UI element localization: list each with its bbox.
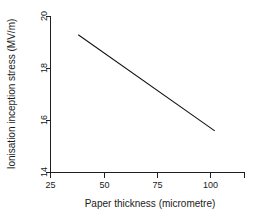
x-tick-label-75: 75 bbox=[152, 180, 162, 190]
x-tick-label-50: 50 bbox=[99, 180, 109, 190]
y-axis-title: Ionisation inception stress (MV/m) bbox=[6, 19, 17, 170]
y-tick-label-14: 14 bbox=[39, 167, 49, 177]
y-tick-label-20: 20 bbox=[39, 11, 49, 21]
plot-canvas: 20 18 16 14 25 50 75 100 Ionisation ince… bbox=[0, 0, 266, 216]
y-tick-label-16: 16 bbox=[39, 115, 49, 125]
data-series-line bbox=[78, 35, 215, 131]
x-tick-label-100: 100 bbox=[203, 180, 218, 190]
x-axis-title: Paper thickness (micrometre) bbox=[85, 198, 216, 209]
chart-figure: 20 18 16 14 25 50 75 100 Ionisation ince… bbox=[0, 0, 266, 216]
x-tick-label-25: 25 bbox=[45, 180, 55, 190]
y-tick-label-18: 18 bbox=[39, 63, 49, 73]
